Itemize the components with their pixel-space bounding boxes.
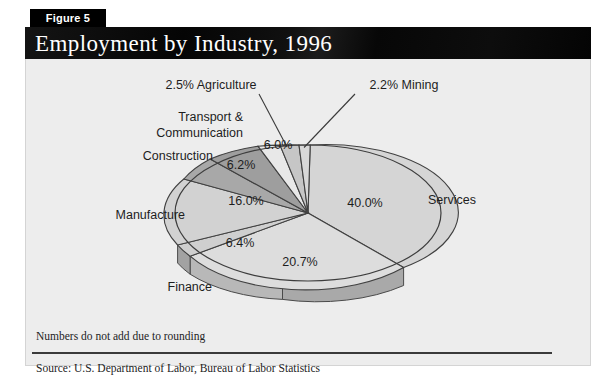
pie-label-services: Services [428,193,476,207]
pie-value-transport: 6.0% [264,138,293,152]
leader-line-mining [304,94,355,148]
figure-title: Employment by Industry, 1996 [35,29,332,59]
pie-label-agriculture: 2.5% Agriculture [165,78,256,92]
figure-number-badge: Figure 5 [30,9,106,27]
figure-number-label: Figure 5 [30,9,106,27]
pie-label-mining: 2.2% Mining [370,78,439,92]
rounding-note: Numbers do not add due to rounding [36,330,205,342]
source-divider [32,352,552,354]
pie-label-transport-line1: Transport & [178,110,244,124]
pie-chart: 2.5% Agriculture 2.2% Mining Transport &… [25,59,591,309]
pie-chart-svg: 2.5% Agriculture 2.2% Mining Transport &… [25,59,591,309]
pie-value-finance: 6.4% [226,236,255,250]
figure-title-bar: Employment by Industry, 1996 [25,27,591,59]
pie-value-services: 40.0% [347,196,382,210]
pie-value-construction: 6.2% [227,158,256,172]
pie-value-wholesale-retail: 20.7% [282,255,317,269]
pie-label-transport-line2: Communication [156,126,243,140]
pie-label-finance: Finance [168,280,213,294]
figure-container: Figure 5 Employment by Industry, 1996 [0,0,616,389]
pie-value-manufacture: 16.0% [228,194,263,208]
pie-label-manufacture: Manufacture [116,208,186,222]
pie-label-construction: Construction [143,149,213,163]
source-note: Source: U.S. Department of Labor, Bureau… [36,362,320,374]
